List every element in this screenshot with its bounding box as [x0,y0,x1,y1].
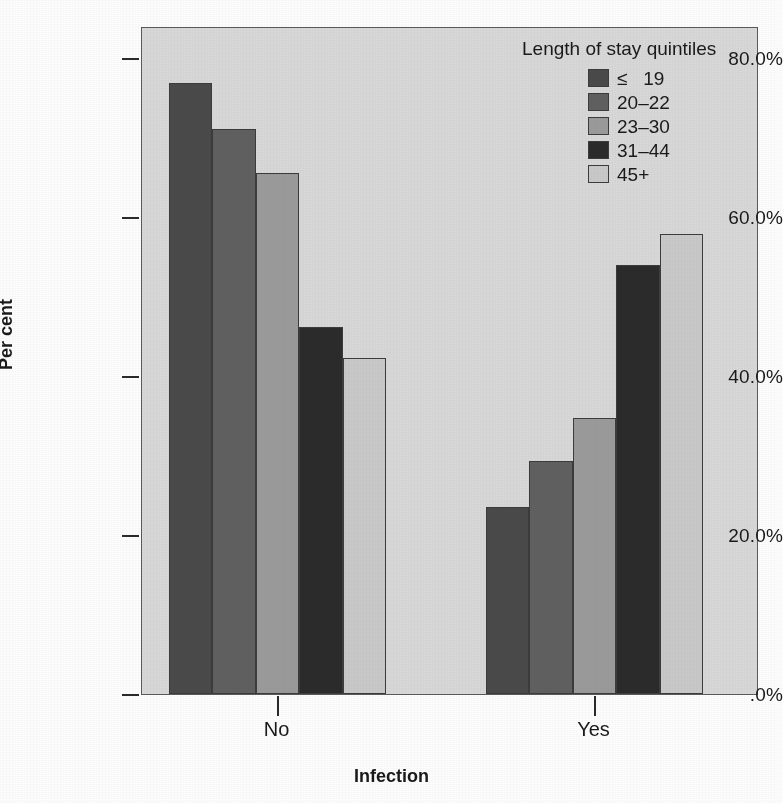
y-tick-mark [122,535,139,537]
legend-item: 23–30 [588,114,750,138]
y-tick-mark [122,376,139,378]
legend-item-label: 45+ [617,165,649,184]
y-tick-label: 40.0% [673,366,783,388]
y-tick-label: .0% [673,684,783,706]
legend-item-label: 20–22 [617,93,670,112]
bar [212,129,255,694]
legend-swatch-icon [588,93,609,111]
y-tick-label: 20.0% [673,525,783,547]
y-tick-mark [122,694,139,696]
scanned-figure-page: .0%20.0%40.0%60.0%80.0% Per cent NoYes I… [0,0,783,803]
legend-items: ≤ 1920–2223–3031–4445+ [520,66,750,186]
legend: Length of stay quintiles ≤ 1920–2223–303… [520,38,750,186]
legend-swatch-icon [588,117,609,135]
bar [616,265,659,694]
legend-title: Length of stay quintiles [520,38,750,60]
legend-item-label: 31–44 [617,141,670,160]
bar [486,507,529,694]
y-tick-mark [122,58,139,60]
bar [343,358,386,694]
x-tick-mark [277,696,279,716]
legend-item: 20–22 [588,90,750,114]
legend-item: ≤ 19 [588,66,750,90]
bar [256,173,299,694]
bar [660,234,703,694]
legend-swatch-icon [588,69,609,87]
legend-item-label: 23–30 [617,117,670,136]
bar [299,327,342,694]
x-tick-mark [594,696,596,716]
bar [529,461,572,694]
legend-item: 31–44 [588,138,750,162]
legend-item: 45+ [588,162,750,186]
x-axis-title: Infection [0,766,783,787]
y-axis-title: Per cent [0,299,17,370]
x-tick-label: No [197,718,357,741]
legend-item-label: ≤ 19 [617,69,664,88]
x-tick-label: Yes [514,718,674,741]
legend-swatch-icon [588,141,609,159]
y-tick-label: 60.0% [673,207,783,229]
legend-swatch-icon [588,165,609,183]
y-tick-mark [122,217,139,219]
bar [169,83,212,694]
bar [573,418,616,694]
